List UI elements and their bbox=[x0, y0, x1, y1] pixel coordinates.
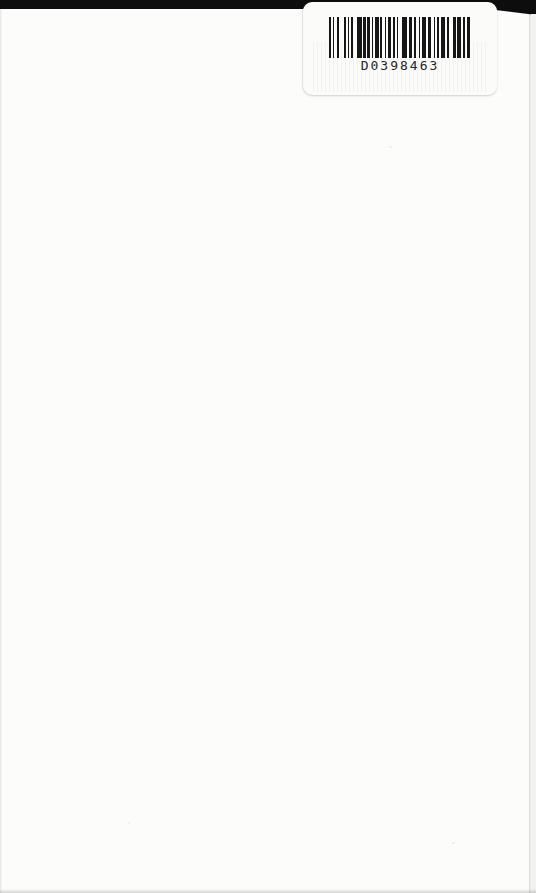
barcode-bar bbox=[402, 17, 407, 58]
paper-speck bbox=[128, 822, 130, 824]
barcode-bar bbox=[422, 17, 426, 58]
barcode-bar bbox=[397, 17, 398, 58]
barcode-bar bbox=[357, 17, 362, 58]
page-left-edge bbox=[0, 9, 2, 893]
barcode-bar bbox=[367, 17, 370, 58]
barcode-bar bbox=[375, 17, 379, 58]
barcode-bar bbox=[463, 17, 465, 58]
barcode-bar bbox=[388, 17, 391, 58]
book-back-cover: D0398463 bbox=[0, 0, 536, 893]
barcode-bar bbox=[447, 17, 449, 58]
barcode-bar bbox=[434, 17, 435, 58]
barcode-bar bbox=[453, 17, 456, 58]
barcode-sticker: D0398463 bbox=[303, 2, 497, 95]
paper-speck bbox=[389, 146, 392, 148]
barcode-bar bbox=[329, 17, 331, 58]
barcode-bar bbox=[414, 17, 416, 58]
barcode-bar bbox=[333, 17, 334, 58]
barcode-bar bbox=[348, 17, 349, 58]
barcode-bar bbox=[457, 17, 461, 58]
page-bottom-edge bbox=[0, 889, 536, 893]
barcode-bar bbox=[419, 17, 420, 58]
barcode-bar bbox=[467, 17, 470, 58]
barcode-bar bbox=[337, 17, 339, 58]
barcode-number: D0398463 bbox=[303, 58, 497, 74]
barcode-bar bbox=[363, 17, 366, 58]
page-right-edge-highlight bbox=[531, 14, 536, 893]
barcode-bar bbox=[393, 17, 395, 58]
barcode-bar bbox=[409, 17, 412, 58]
barcode-bar bbox=[441, 17, 445, 58]
barcode-bar bbox=[344, 17, 346, 58]
barcode-bar bbox=[437, 17, 439, 58]
barcode-bar bbox=[428, 17, 431, 58]
barcode-bar bbox=[372, 17, 373, 58]
paper-speck bbox=[452, 842, 455, 844]
barcode-bar bbox=[380, 17, 382, 58]
barcode-bar bbox=[351, 17, 353, 58]
barcode-icon bbox=[329, 17, 470, 58]
barcode-bar bbox=[385, 17, 386, 58]
